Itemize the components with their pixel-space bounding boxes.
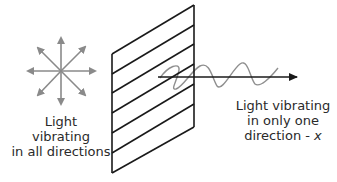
unpolarized-label-line-2: vibrating <box>0 129 122 144</box>
unpolarized-label-line-3: in all directions <box>0 144 122 159</box>
unpolarized-light-label: Light vibrating in all directions <box>0 114 122 159</box>
polarized-label-line-1: Light vibrating <box>228 98 337 113</box>
polarized-label-line-2: in only one <box>228 113 337 128</box>
axis-symbol-x: x <box>314 128 322 143</box>
unpolarized-light-star-icon <box>28 38 95 104</box>
polarizing-filter <box>112 5 194 173</box>
polarized-wave <box>160 63 278 89</box>
polarized-label-line-3: direction - x <box>228 128 337 143</box>
polarized-label-line-3-text: direction - <box>244 128 314 143</box>
unpolarized-label-line-1: Light <box>0 114 122 129</box>
polarized-light-label: Light vibrating in only one direction - … <box>228 98 337 143</box>
